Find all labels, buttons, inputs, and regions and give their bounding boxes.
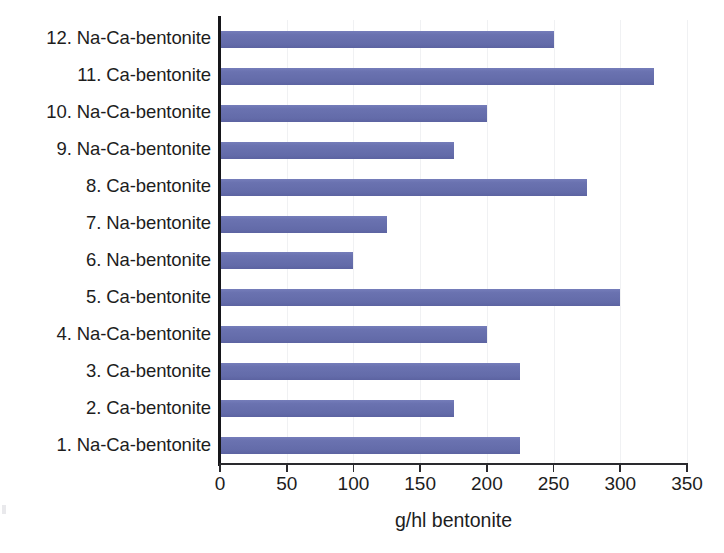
gridline-50 — [287, 20, 288, 463]
bar — [220, 326, 487, 343]
bar — [220, 289, 620, 306]
category-label: 7. Na-bentonite — [0, 214, 211, 233]
bar — [220, 179, 587, 196]
tick-mark-300 — [619, 464, 621, 472]
gridline-300 — [620, 20, 621, 463]
x-axis-title: g/hl bentonite — [220, 511, 687, 531]
category-axis-labels: 12. Na-Ca-bentonite11. Ca-bentonite10. N… — [0, 20, 211, 463]
gridline-100 — [353, 20, 354, 463]
bar — [220, 437, 520, 454]
category-label: 6. Na-bentonite — [0, 251, 211, 270]
tick-label: 50 — [276, 474, 297, 493]
category-label: 10. Na-Ca-bentonite — [0, 103, 211, 122]
bar-chart: 12. Na-Ca-bentonite11. Ca-bentonite10. N… — [0, 0, 724, 553]
tick-mark-50 — [286, 464, 288, 472]
x-axis-line — [219, 463, 688, 465]
category-label: 3. Ca-bentonite — [0, 362, 211, 381]
category-label: 1. Na-Ca-bentonite — [0, 436, 211, 455]
bar — [220, 31, 554, 48]
category-label: 2. Ca-bentonite — [0, 399, 211, 418]
tick-label: 250 — [538, 474, 570, 493]
bar — [220, 68, 654, 85]
category-label: 12. Na-Ca-bentonite — [0, 29, 211, 48]
tick-mark-150 — [419, 464, 421, 472]
plot-area — [220, 20, 687, 463]
tick-label: 300 — [604, 474, 636, 493]
category-label: 9. Na-Ca-bentonite — [0, 140, 211, 159]
category-label: 8. Ca-bentonite — [0, 177, 211, 196]
tick-label: 0 — [215, 474, 226, 493]
scan-artifact — [2, 505, 6, 514]
category-label: 4. Na-Ca-bentonite — [0, 325, 211, 344]
gridline-350 — [687, 20, 688, 463]
tick-label: 350 — [671, 474, 703, 493]
bar — [220, 142, 454, 159]
gridline-250 — [554, 20, 555, 463]
category-label: 11. Ca-bentonite — [0, 66, 211, 85]
gridline-150 — [420, 20, 421, 463]
tick-label: 100 — [338, 474, 370, 493]
tick-label: 200 — [471, 474, 503, 493]
bar — [220, 252, 353, 269]
y-axis-line — [218, 16, 221, 466]
tick-mark-200 — [486, 464, 488, 472]
tick-label: 150 — [404, 474, 436, 493]
bar — [220, 105, 487, 122]
tick-mark-250 — [553, 464, 555, 472]
tick-mark-0 — [219, 464, 221, 472]
bar — [220, 363, 520, 380]
bar — [220, 400, 454, 417]
tick-mark-100 — [353, 464, 355, 472]
bar — [220, 216, 387, 233]
gridline-200 — [487, 20, 488, 463]
category-label: 5. Ca-bentonite — [0, 288, 211, 307]
tick-mark-350 — [686, 464, 688, 472]
